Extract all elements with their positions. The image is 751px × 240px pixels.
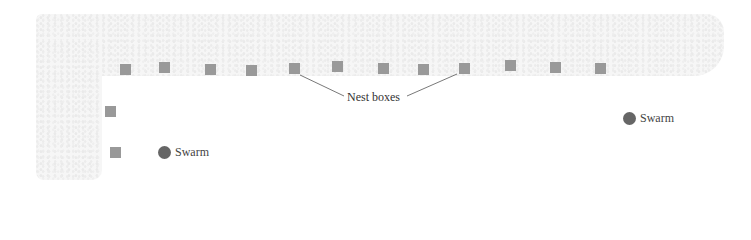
swarm-label: Swarm <box>640 111 674 126</box>
leader-line-right <box>407 74 457 96</box>
leader-line-left <box>300 75 344 96</box>
swarm-marker-left: Swarm <box>158 145 209 160</box>
nest-boxes-label: Nest boxes <box>347 90 400 105</box>
swarm-label: Swarm <box>175 145 209 160</box>
swarm-dot-icon <box>158 146 171 159</box>
swarm-dot-icon <box>623 112 636 125</box>
swarm-marker-right: Swarm <box>623 111 674 126</box>
